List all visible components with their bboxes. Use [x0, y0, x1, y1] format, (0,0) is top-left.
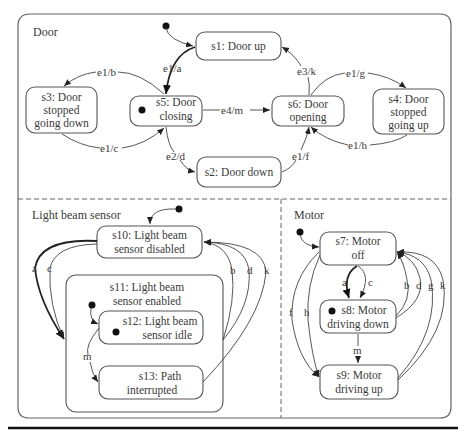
label-motor-d: d [416, 279, 422, 291]
svg-text:stopped: stopped [391, 106, 427, 119]
region-label-motor: Motor [294, 208, 324, 222]
state-s12: s12: Light beam sensor idle [99, 311, 203, 344]
label-motor-g: g [428, 279, 434, 291]
transition-s7-to-s8-a [347, 266, 357, 298]
transition-initial-to-s10 [150, 209, 176, 224]
svg-text:closing: closing [159, 110, 192, 123]
state-s4: s4: Door stopped going up [373, 89, 444, 134]
svg-text:interrupted: interrupted [127, 384, 178, 397]
state-s7: s7: Motor off [320, 232, 396, 265]
label-e1-b: e1/b [97, 66, 116, 78]
label-e3-k: e3/k [297, 65, 316, 77]
initial-pseudostate-sensor [176, 206, 183, 213]
svg-text:s7: Motor: s7: Motor [335, 235, 380, 247]
svg-text:sensor disabled: sensor disabled [114, 243, 185, 255]
label-motor-a: a [342, 276, 347, 288]
svg-text:s5: Door: s5: Door [156, 96, 196, 108]
svg-text:s8: Motor: s8: Motor [341, 304, 386, 316]
label-e2-d: e2/d [166, 150, 185, 162]
svg-text:s2: Door down: s2: Door down [205, 166, 274, 178]
svg-text:driving up: driving up [335, 383, 383, 396]
svg-text:sensor enabled: sensor enabled [113, 295, 181, 307]
svg-text:s4: Door: s4: Door [389, 93, 429, 105]
state-s6: s6: Door opening [272, 96, 344, 126]
state-s2: s2: Door down [197, 157, 281, 187]
svg-text:s9: Motor: s9: Motor [336, 369, 381, 381]
svg-text:going down: going down [34, 117, 89, 130]
initial-dot-s8 [329, 308, 336, 315]
initial-dot-s5 [139, 107, 146, 114]
label-sensor-a: a [32, 262, 37, 274]
label-motor-k: k [440, 279, 446, 291]
state-s13: s13: Path interrupted [99, 366, 203, 399]
label-e1-g: e1/g [346, 67, 365, 79]
label-e1-a: e1/a [163, 62, 181, 74]
transition-s7-to-s9-h [308, 255, 320, 377]
svg-text:s3: Door: s3: Door [42, 91, 82, 103]
transition-initial-to-s1 [166, 28, 193, 46]
state-s9: s9: Motor driving up [320, 365, 398, 399]
transition-initial-to-s7 [300, 235, 319, 247]
label-e1-c: e1/c [100, 142, 118, 154]
svg-text:s13: Path: s13: Path [139, 370, 182, 382]
region-label-door: Door [33, 25, 58, 39]
svg-text:s6: Door: s6: Door [288, 98, 328, 110]
label-motor-c: c [368, 276, 373, 288]
transition-s7-to-s8-c [358, 266, 366, 298]
label-motor-h: h [304, 306, 310, 318]
svg-text:s10: Light beam: s10: Light beam [112, 229, 187, 242]
label-sensor-b: b [230, 264, 236, 276]
statechart-diagram: Door Light beam sensor Motor s1: Door up… [0, 0, 464, 436]
state-s8: s8: Motor driving down [320, 300, 396, 333]
svg-text:sensor idle: sensor idle [142, 329, 192, 341]
svg-text:stopped: stopped [44, 104, 80, 117]
svg-text:off: off [351, 249, 364, 261]
state-s1: s1: Door up [196, 32, 281, 60]
initial-dot-s12 [113, 329, 120, 336]
label-sensor-d: d [247, 264, 253, 276]
svg-text:driving down: driving down [327, 318, 389, 331]
label-motor-m: m [353, 344, 362, 356]
label-motor-f: f [289, 306, 293, 318]
state-s10: s10: Light beam sensor disabled [97, 226, 202, 258]
label-e1-f: e1/f [292, 150, 309, 162]
label-sensor-c: c [47, 262, 52, 274]
svg-text:opening: opening [289, 111, 326, 124]
svg-text:going up: going up [388, 119, 429, 132]
transition-s9-to-s7-g [397, 252, 433, 378]
label-sensor-m: m [83, 350, 92, 362]
region-label-light-beam-sensor: Light beam sensor [32, 208, 121, 222]
state-s3: s3: Door stopped going down [26, 87, 97, 133]
svg-text:s11: Light beam: s11: Light beam [110, 281, 184, 294]
label-motor-b: b [404, 279, 410, 291]
state-s5: s5: Door closing [130, 96, 202, 126]
label-e1-h: e1/h [348, 139, 367, 151]
label-e4-m: e4/m [221, 104, 243, 116]
initial-pseudostate-motor [297, 229, 304, 236]
initial-pseudostate-s11 [89, 302, 96, 309]
svg-text:s1: Door up: s1: Door up [211, 40, 266, 53]
svg-text:s12: Light beam: s12: Light beam [123, 315, 198, 328]
transition-s9-to-s7-k [397, 252, 444, 380]
label-sensor-k: k [264, 264, 270, 276]
